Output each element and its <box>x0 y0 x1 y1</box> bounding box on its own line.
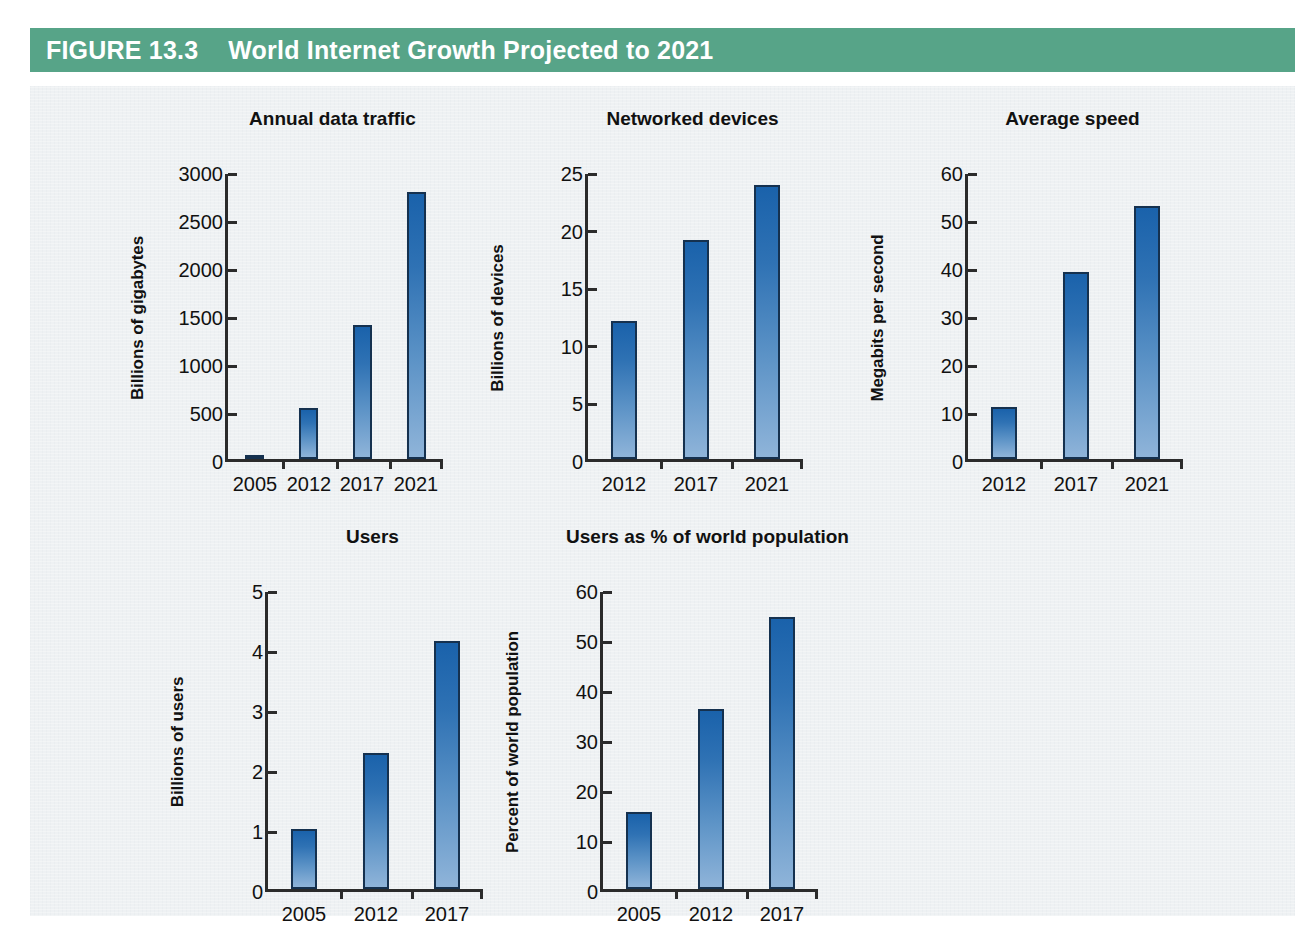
chart-users-percent-world-population: Users as % of world populationPercent of… <box>500 526 835 938</box>
x-axis-tick-label: 2012 <box>689 903 734 926</box>
y-axis-tick-mark <box>588 173 597 176</box>
y-axis-tick-mark <box>603 591 612 594</box>
bar <box>1134 206 1160 459</box>
y-axis-tick: 1000 <box>179 355 229 378</box>
chart-title: Users as % of world population <box>543 526 873 548</box>
chart-networked-devices: Networked devicesBillions of devices0510… <box>485 108 820 508</box>
y-axis-tick: 0 <box>572 451 588 474</box>
y-axis-tick-label: 3 <box>252 701 268 724</box>
x-axis-tick-mark <box>800 459 803 469</box>
y-axis-tick-label: 40 <box>941 259 968 282</box>
y-axis-tick-mark <box>268 651 277 654</box>
y-axis-label: Billions of devices <box>485 174 511 462</box>
x-axis-tick-mark <box>675 889 678 899</box>
y-axis-tick-label: 0 <box>212 451 228 474</box>
bar <box>1063 272 1089 459</box>
y-axis-tick-mark <box>603 691 612 694</box>
chart-title: Average speed <box>908 108 1238 130</box>
x-axis-tick-label: 2017 <box>425 903 470 926</box>
bar <box>626 812 652 890</box>
y-axis-label: Billions of gigabytes <box>125 174 151 462</box>
y-axis-tick-label: 500 <box>190 403 228 426</box>
x-axis-tick-label: 2021 <box>1125 473 1170 496</box>
figure-number-label: FIGURE 13.3 <box>46 36 198 65</box>
plot-frame: 0500100015002000250030002005201220172021 <box>225 174 440 462</box>
y-axis-tick-mark <box>228 269 237 272</box>
x-axis-tick-mark <box>1180 459 1183 469</box>
y-axis-tick-label: 50 <box>941 211 968 234</box>
chart-title: Users <box>208 526 538 548</box>
y-axis-tick-label: 30 <box>576 731 603 754</box>
y-axis-tick: 1 <box>252 821 268 844</box>
y-axis-tick-mark <box>968 317 977 320</box>
x-axis-tick-label: 2012 <box>602 473 647 496</box>
y-axis-tick-mark <box>228 221 237 224</box>
y-axis-tick: 10 <box>576 831 603 854</box>
y-axis-tick: 5 <box>252 581 268 604</box>
y-axis-tick: 50 <box>576 631 603 654</box>
y-axis-tick-mark <box>968 365 977 368</box>
y-axis-tick: 0 <box>252 881 268 904</box>
y-axis-tick-label: 10 <box>561 335 588 358</box>
chart-average-speed: Average speedMegabits per second01020304… <box>865 108 1200 508</box>
y-axis-tick: 40 <box>941 259 968 282</box>
y-axis-label: Percent of world population <box>500 592 526 892</box>
y-axis-tick-label: 20 <box>941 355 968 378</box>
x-axis-tick-mark <box>411 889 414 899</box>
y-axis-tick-mark <box>268 771 277 774</box>
bar <box>245 455 264 459</box>
bar <box>683 240 709 459</box>
y-axis-tick-mark <box>588 403 597 406</box>
plot-frame: 0102030405060201220172021 <box>965 174 1180 462</box>
y-axis-tick: 15 <box>561 278 588 301</box>
bar <box>407 192 426 459</box>
figure-title: World Internet Growth Projected to 2021 <box>228 36 713 65</box>
y-axis-tick: 50 <box>941 211 968 234</box>
y-axis-label: Billions of users <box>165 592 191 892</box>
x-axis-tick-mark <box>440 459 443 469</box>
y-axis-tick: 20 <box>941 355 968 378</box>
chart-title: Networked devices <box>528 108 858 130</box>
x-axis-tick-label: 2021 <box>394 473 439 496</box>
x-axis-tick-label: 2012 <box>982 473 1027 496</box>
y-axis-tick: 0 <box>212 451 228 474</box>
chart-plot-area: Billions of users012345200520122017 <box>165 554 500 938</box>
y-axis-tick-label: 5 <box>572 393 588 416</box>
y-axis-tick-label: 60 <box>576 581 603 604</box>
y-axis-tick-mark <box>968 173 977 176</box>
y-axis-tick-label: 30 <box>941 307 968 330</box>
x-axis-tick-mark <box>480 889 483 899</box>
chart-plot-area: Megabits per second010203040506020122017… <box>865 136 1200 508</box>
y-axis-tick: 500 <box>190 403 228 426</box>
y-axis-tick-label: 60 <box>941 163 968 186</box>
y-axis-tick-label: 20 <box>561 220 588 243</box>
y-axis-tick: 3 <box>252 701 268 724</box>
x-axis-tick-mark <box>336 459 339 469</box>
x-axis-tick-label: 2005 <box>233 473 278 496</box>
y-axis-tick-label: 10 <box>576 831 603 854</box>
x-axis-tick-label: 2017 <box>760 903 805 926</box>
chart-plot-area: Billions of gigabytes0500100015002000250… <box>125 136 460 508</box>
y-axis-tick-label: 2000 <box>179 259 229 282</box>
y-axis-tick-label: 0 <box>952 451 968 474</box>
x-axis-tick-mark <box>282 459 285 469</box>
y-axis-tick: 60 <box>576 581 603 604</box>
x-axis-tick-label: 2017 <box>1054 473 1099 496</box>
y-axis-tick-label: 0 <box>252 881 268 904</box>
y-axis-tick: 2 <box>252 761 268 784</box>
bar <box>353 325 372 459</box>
x-axis-tick-label: 2012 <box>354 903 399 926</box>
y-axis-tick-label: 3000 <box>179 163 229 186</box>
y-axis-tick: 2500 <box>179 211 229 234</box>
figure-root: FIGURE 13.3 World Internet Growth Projec… <box>0 0 1310 947</box>
y-axis-tick-mark <box>603 641 612 644</box>
y-axis-tick: 60 <box>941 163 968 186</box>
y-axis-tick-mark <box>968 221 977 224</box>
y-axis-tick-label: 5 <box>252 581 268 604</box>
chart-users: UsersBillions of users012345200520122017 <box>165 526 500 938</box>
y-axis-tick-mark <box>603 841 612 844</box>
x-axis-tick-mark <box>1111 459 1114 469</box>
y-axis-tick-mark <box>588 288 597 291</box>
y-axis-tick-label: 0 <box>587 881 603 904</box>
bar <box>363 753 389 889</box>
